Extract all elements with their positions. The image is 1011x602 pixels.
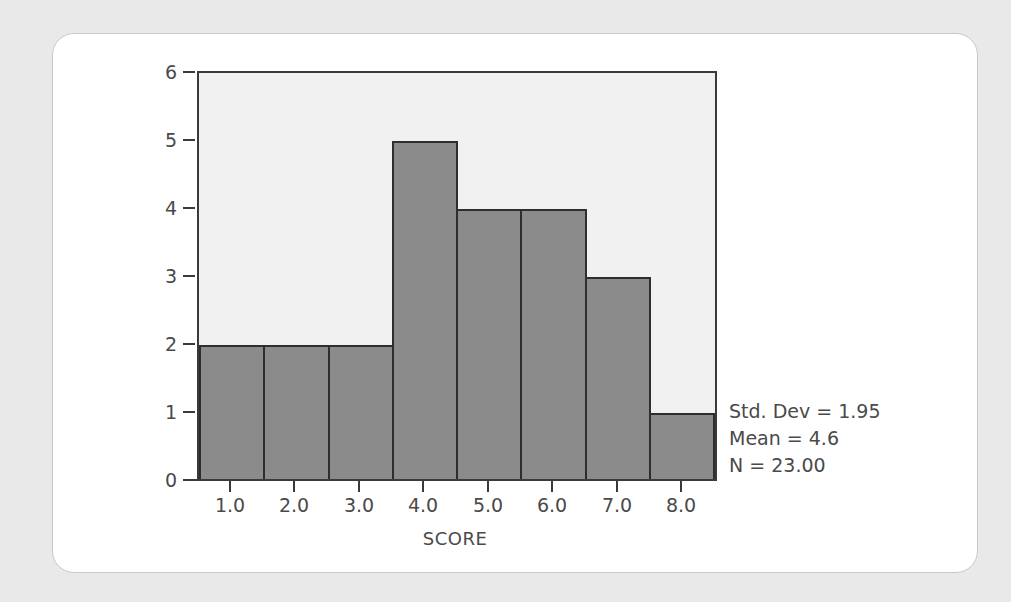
x-axis-label-1: 1.0 — [200, 496, 260, 515]
x-axis-label-7: 7.0 — [587, 496, 647, 515]
x-axis-tick-4 — [422, 481, 424, 492]
n-text: N = 23.00 — [729, 452, 881, 479]
x-axis-line — [193, 479, 717, 481]
bar-7 — [585, 277, 651, 481]
bar-8 — [649, 413, 715, 481]
chart-card: 6 5 4 3 2 1 0 — [52, 33, 978, 573]
mean-text: Mean = 4.6 — [729, 425, 881, 452]
x-axis-tick-3 — [358, 481, 360, 492]
bar-2 — [263, 345, 329, 481]
statistics-annotation: Std. Dev = 1.95 Mean = 4.6 N = 23.00 — [729, 398, 881, 479]
y-axis-label-2: 2 — [139, 335, 177, 354]
x-axis-label-3: 3.0 — [329, 496, 389, 515]
x-axis-label-6: 6.0 — [522, 496, 582, 515]
y-axis-tick-1 — [183, 411, 195, 413]
y-axis-tick-4 — [183, 207, 195, 209]
x-axis-label-4: 4.0 — [393, 496, 453, 515]
y-axis-label-4: 4 — [139, 199, 177, 218]
y-axis-tick-3 — [183, 275, 195, 277]
y-axis-label-1: 1 — [139, 403, 177, 422]
y-axis-label-5: 5 — [139, 131, 177, 150]
y-axis-label-6: 6 — [139, 63, 177, 82]
bar-1 — [199, 345, 265, 481]
x-axis-label-8: 8.0 — [651, 496, 711, 515]
y-axis-tick-2 — [183, 343, 195, 345]
x-axis-tick-1 — [229, 481, 231, 492]
page-root: 6 5 4 3 2 1 0 — [0, 0, 1011, 602]
y-axis-tick-5 — [183, 139, 195, 141]
y-axis-tick-6 — [183, 71, 195, 73]
bar-5 — [456, 209, 522, 481]
x-axis-tick-5 — [487, 481, 489, 492]
x-axis-tick-6 — [551, 481, 553, 492]
x-axis-tick-7 — [616, 481, 618, 492]
histogram-chart: 6 5 4 3 2 1 0 — [53, 34, 979, 574]
bar-4 — [392, 141, 458, 481]
bar-3 — [328, 345, 394, 481]
plot-area — [197, 71, 717, 481]
x-axis-title: SCORE — [197, 528, 713, 549]
x-axis-tick-8 — [680, 481, 682, 492]
bar-6 — [520, 209, 586, 481]
y-axis-label-0: 0 — [139, 471, 177, 490]
x-axis-label-2: 2.0 — [264, 496, 324, 515]
y-axis-label-3: 3 — [139, 267, 177, 286]
x-axis-tick-2 — [293, 481, 295, 492]
bars-group — [199, 73, 715, 481]
std-dev-text: Std. Dev = 1.95 — [729, 398, 881, 425]
x-axis-label-5: 5.0 — [458, 496, 518, 515]
